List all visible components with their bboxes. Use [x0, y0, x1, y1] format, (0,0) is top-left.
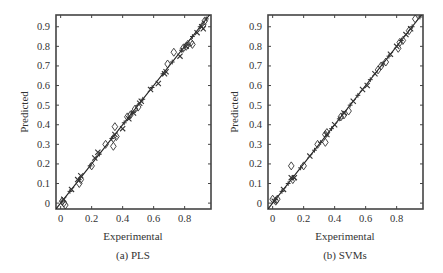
panel-pls: 00.20.40.60.800.10.20.30.40.50.60.70.80.… [18, 13, 211, 262]
data-layer [268, 13, 423, 209]
y-axis-label: Predicted [228, 91, 240, 133]
diamond-marker [171, 48, 177, 56]
y-tick-label: 0 [45, 198, 50, 209]
y-tick-label: 0.1 [37, 178, 50, 189]
y-tick-label: 0.5 [37, 100, 50, 111]
y-tick-label: 0.9 [37, 21, 50, 32]
figure: 00.20.40.60.800.10.20.30.40.50.60.70.80.… [0, 0, 443, 273]
diamond-marker [412, 15, 418, 23]
panel-caption: (b) SVMs [323, 249, 367, 262]
y-tick-label: 0.2 [37, 158, 50, 169]
y-axis-label: Predicted [18, 91, 30, 133]
diamond-marker [288, 162, 294, 170]
y-tick-label: 0.2 [249, 158, 262, 169]
cross-marker [156, 81, 161, 86]
cross-marker [307, 153, 312, 158]
y-tick-label: 0.3 [249, 139, 262, 150]
cross-marker [120, 126, 125, 131]
y-tick-label: 0.6 [37, 80, 50, 91]
y-tick-label: 0.4 [249, 119, 263, 130]
cross-marker [372, 71, 377, 76]
data-layer [56, 13, 211, 209]
diamond-marker [165, 60, 171, 68]
cross-marker [403, 32, 408, 37]
x-tick-label: 0.2 [297, 213, 310, 224]
y-tick-label: 0.6 [249, 80, 262, 91]
x-axis-label: Experimental [315, 230, 374, 242]
diamond-marker [111, 142, 117, 150]
cross-marker [394, 44, 399, 49]
x-tick-label: 0 [58, 213, 63, 224]
y-tick-label: 0.1 [249, 178, 262, 189]
x-tick-label: 0.6 [147, 213, 160, 224]
x-tick-label: 0.4 [328, 213, 342, 224]
y-tick-label: 0.8 [249, 41, 262, 52]
cross-marker [332, 122, 337, 127]
x-tick-label: 0.2 [85, 213, 98, 224]
cross-marker [351, 99, 356, 104]
y-tick-label: 0.7 [37, 60, 50, 71]
plot-area-svms: 00.20.40.60.800.10.20.30.40.50.60.70.80.… [249, 13, 423, 224]
x-tick-label: 0.4 [116, 213, 130, 224]
y-tick-label: 0.5 [249, 100, 262, 111]
plot-area-pls: 00.20.40.60.800.10.20.30.40.50.60.70.80.… [37, 13, 211, 224]
x-tick-label: 0 [270, 213, 275, 224]
y-tick-label: 0.7 [249, 60, 262, 71]
x-tick-label: 0.8 [178, 213, 191, 224]
diamond-marker [112, 123, 118, 131]
panel-caption: (a) PLS [116, 249, 150, 262]
y-tick-label: 0.3 [37, 139, 50, 150]
y-tick-label: 0.8 [37, 41, 50, 52]
x-tick-label: 0.6 [359, 213, 372, 224]
y-tick-label: 0.9 [249, 21, 262, 32]
x-axis-label: Experimental [103, 230, 162, 242]
cross-marker [177, 54, 182, 59]
panel-svms: 00.20.40.60.800.10.20.30.40.50.60.70.80.… [228, 13, 423, 262]
y-tick-label: 0.4 [37, 119, 51, 130]
y-tick-label: 0 [257, 198, 262, 209]
x-tick-label: 0.8 [390, 213, 403, 224]
chart-canvas: 00.20.40.60.800.10.20.30.40.50.60.70.80.… [0, 0, 443, 273]
